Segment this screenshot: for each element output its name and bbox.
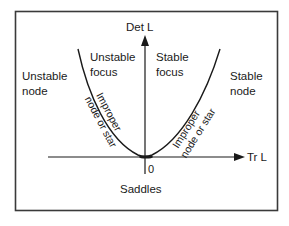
region-stable-focus-line2: focus <box>156 66 184 78</box>
region-unstable-node-line2: node <box>22 85 48 97</box>
region-stable-node-line2: node <box>230 85 256 97</box>
origin-marker <box>139 155 153 158</box>
x-axis-label: Tr L <box>247 151 268 163</box>
region-unstable-focus-line1: Unstable <box>90 51 135 63</box>
origin-label: 0 <box>148 163 154 175</box>
x-axis-arrowhead-icon <box>234 153 245 161</box>
y-axis-arrowhead-icon <box>141 35 149 46</box>
y-axis-label: Det L <box>126 21 154 33</box>
region-unstable-node-line1: Unstable <box>22 70 67 82</box>
region-unstable-focus-line2: focus <box>90 66 118 78</box>
region-stable-node-line1: Stable <box>230 70 263 82</box>
region-saddles: Saddles <box>120 183 162 195</box>
diagram-canvas: Det L Tr L 0 Unstable node Unstable focu… <box>0 0 289 226</box>
curve-label-right: Improper node or star <box>167 99 217 160</box>
region-stable-focus-line1: Stable <box>156 51 189 63</box>
trace-determinant-diagram: Det L Tr L 0 Unstable node Unstable focu… <box>0 0 289 226</box>
curve-label-left: Improper node or star <box>83 89 131 150</box>
